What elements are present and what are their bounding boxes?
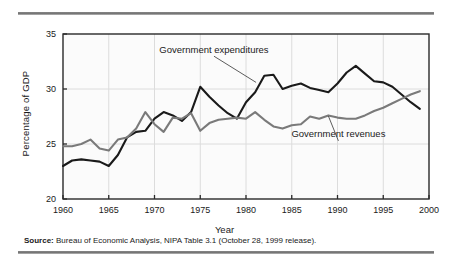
source-note: Source: Bureau of Economic Analysis, NIP… [24,236,316,245]
series-annotation-label: Government expenditures [159,44,269,55]
x-tick-label: 1985 [282,205,302,215]
x-tick-label: 1970 [144,205,164,215]
y-tick-label: 20 [46,194,56,204]
top-divider-rule [18,12,434,15]
y-axis-title: Percentage of GDP [20,59,31,169]
y-tick-label: 30 [46,84,56,94]
x-axis-title: Year [0,224,449,235]
y-tick-label: 35 [46,29,56,39]
figure-container: 2025303519601965197019751980198519901995… [0,0,449,265]
x-tick-label: 1995 [373,205,393,215]
series-annotation-label: Government revenues [291,128,385,139]
source-text: Bureau of Economic Analysis, NIPA Table … [56,236,316,245]
x-tick-label: 2000 [419,205,439,215]
x-tick-label: 1975 [190,205,210,215]
source-label: Source: [24,236,54,245]
plot-area: 2025303519601965197019751980198519901995… [0,22,449,222]
x-tick-label: 1980 [236,205,256,215]
bottom-divider-rule [18,251,434,254]
line-chart: 2025303519601965197019751980198519901995… [0,22,449,222]
x-tick-label: 1965 [99,205,119,215]
x-tick-label: 1960 [53,205,73,215]
x-tick-label: 1990 [327,205,347,215]
y-tick-label: 25 [46,139,56,149]
